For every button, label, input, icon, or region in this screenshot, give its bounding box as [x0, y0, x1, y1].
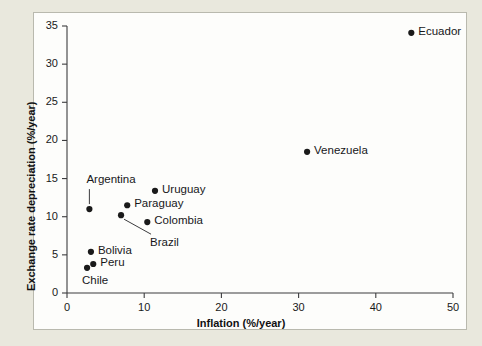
y-tick-label: 25 — [36, 95, 58, 107]
y-tick-label: 30 — [36, 57, 58, 69]
point-label-argentina: Argentina — [86, 173, 135, 185]
point-label-venezuela: Venezuela — [314, 144, 368, 156]
y-tick-label: 35 — [36, 19, 58, 31]
y-tick-label: 15 — [36, 172, 58, 184]
x-tick-label: 10 — [132, 301, 156, 313]
point-label-brazil: Brazil — [150, 236, 179, 248]
figure-root: 0510152025303501020304050 EcuadorVenezue… — [0, 0, 482, 346]
point-label-paraguay: Paraguay — [134, 197, 183, 209]
y-tick-label: 0 — [36, 286, 58, 298]
x-tick-label: 40 — [364, 301, 388, 313]
y-tick-label: 5 — [36, 248, 58, 260]
x-tick-label: 20 — [209, 301, 233, 313]
point-label-uruguay: Uruguay — [162, 183, 205, 195]
point-label-chile: Chile — [82, 274, 108, 286]
leader-lines — [89, 189, 151, 234]
y-axis-title: Exchange rate depreciation (%/year) — [25, 101, 37, 291]
scatter-plot-canvas — [0, 0, 482, 346]
point-label-ecuador: Ecuador — [418, 25, 461, 37]
x-tick-label: 0 — [55, 301, 79, 313]
x-axis-title: Inflation (%/year) — [0, 317, 482, 329]
point-label-peru: Peru — [100, 256, 124, 268]
point-label-colombia: Colombia — [154, 214, 203, 226]
x-tick-label: 30 — [287, 301, 311, 313]
point-label-bolivia: Bolivia — [98, 244, 132, 256]
y-tick-label: 20 — [36, 133, 58, 145]
x-tick-label: 50 — [441, 301, 465, 313]
y-tick-label: 10 — [36, 210, 58, 222]
